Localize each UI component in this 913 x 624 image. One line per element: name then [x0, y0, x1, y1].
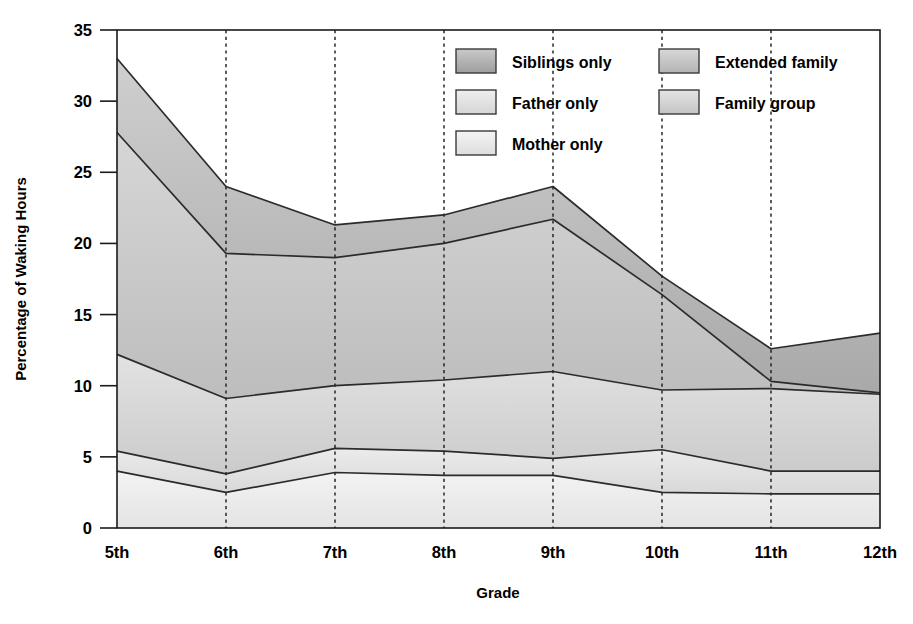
- x-tick-label-6th: 6th: [214, 543, 239, 561]
- y-tick-label-5: 5: [83, 448, 92, 466]
- x-tick-label-12th: 12th: [863, 543, 897, 561]
- y-tick-label-20: 20: [74, 234, 92, 252]
- y-tick-label-35: 35: [74, 21, 92, 39]
- legend-label: Family group: [715, 95, 816, 112]
- x-tick-label-9th: 9th: [541, 543, 566, 561]
- legend-label: Father only: [512, 95, 598, 112]
- stacked-area-chart: 05101520253035 5th6th7th8th9th10th11th12…: [0, 0, 913, 624]
- y-tick-label-30: 30: [74, 92, 92, 110]
- y-tick-label-10: 10: [74, 377, 92, 395]
- legend-label: Siblings only: [512, 54, 612, 71]
- legend-label: Extended family: [715, 54, 838, 71]
- y-axis-ticks: 05101520253035: [74, 21, 117, 537]
- y-tick-label-25: 25: [74, 163, 92, 181]
- legend-swatch-icon: [659, 90, 699, 114]
- x-axis-title: Grade: [476, 584, 519, 601]
- chart-container: 05101520253035 5th6th7th8th9th10th11th12…: [0, 0, 913, 624]
- y-axis-title: Percentage of Waking Hours: [12, 177, 29, 381]
- x-axis-ticks: 5th6th7th8th9th10th11th12th: [105, 543, 897, 561]
- legend-swatch-icon: [456, 90, 496, 114]
- legend-swatch-icon: [456, 49, 496, 73]
- legend-swatch-icon: [659, 49, 699, 73]
- y-tick-label-0: 0: [83, 519, 92, 537]
- legend-swatch-icon: [456, 131, 496, 155]
- x-tick-label-8th: 8th: [432, 543, 457, 561]
- x-tick-label-5th: 5th: [105, 543, 130, 561]
- y-tick-label-15: 15: [74, 306, 92, 324]
- x-tick-label-11th: 11th: [754, 543, 787, 561]
- legend-label: Mother only: [512, 136, 603, 153]
- x-tick-label-7th: 7th: [323, 543, 348, 561]
- x-tick-label-10th: 10th: [645, 543, 679, 561]
